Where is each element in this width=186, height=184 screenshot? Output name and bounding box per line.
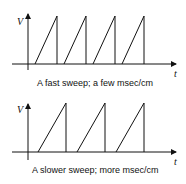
caption: A slower sweep; more msec/cm	[32, 165, 159, 175]
ramp	[38, 103, 66, 152]
sweep-diagram	[0, 0, 186, 184]
caption: A fast sweep; a few msec/cm	[37, 78, 153, 88]
y-axis-label: V	[17, 16, 23, 27]
ramp	[93, 16, 115, 64]
fast-sweep-plot	[12, 14, 176, 70]
ramp	[77, 103, 105, 152]
ramp	[35, 16, 57, 64]
slow-sweep-plot	[12, 103, 176, 160]
x-axis-label: t	[174, 156, 177, 167]
ramp	[122, 16, 144, 64]
ramp	[116, 103, 144, 152]
x-axis-label: t	[174, 68, 177, 79]
ramp	[64, 16, 86, 64]
y-axis-label: V	[17, 104, 23, 115]
